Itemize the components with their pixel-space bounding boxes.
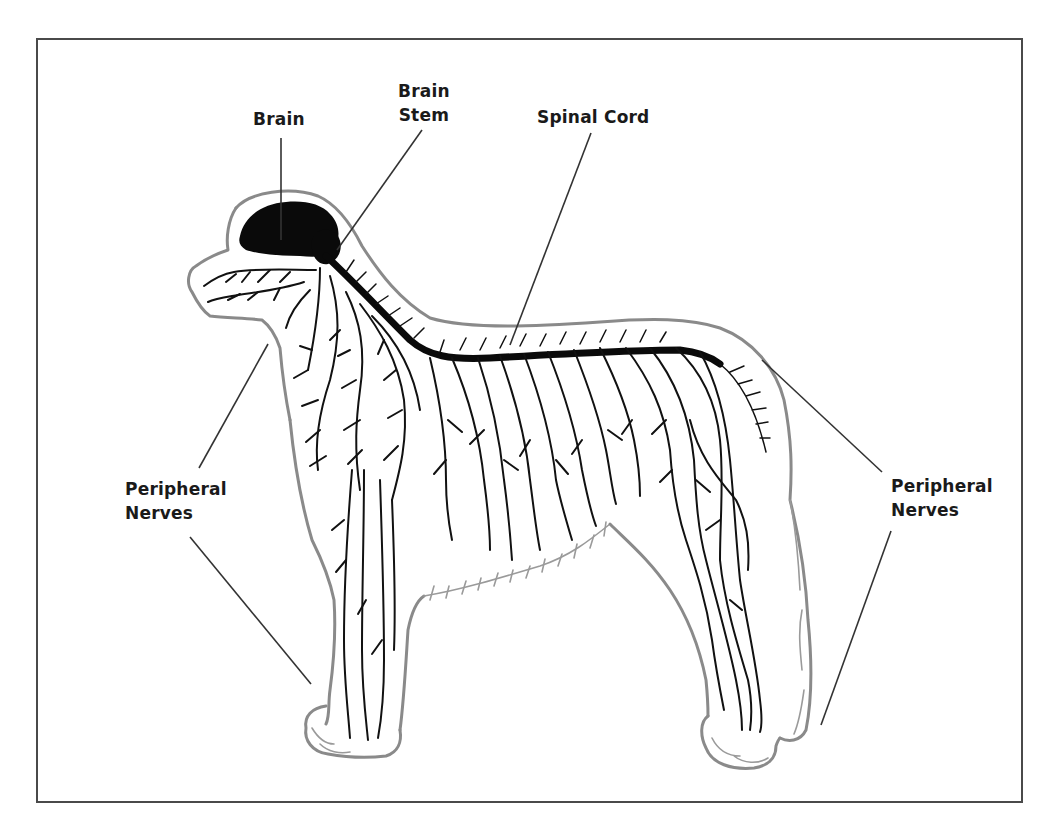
label-peripheral-nerves-left: Peripheral Nerves [125,477,227,525]
label-spinal-cord-text: Spinal Cord [537,107,649,127]
label-brain-stem-line1: Brain [398,79,450,103]
leader-peripheral-left-upper [199,344,268,468]
front-leg-nerves [332,470,395,740]
leader-peripheral-right-lower [821,531,891,725]
label-peripheral-right-line1: Peripheral [891,474,993,498]
rear-leg-nerves [626,348,762,732]
leader-spinal-cord [510,133,591,345]
label-brain-stem: Brain Stem [398,79,450,127]
dog-outline [189,191,811,768]
leader-peripheral-right-upper [762,360,882,472]
trunk-nerves [430,348,640,560]
label-brain: Brain [253,107,305,131]
label-spinal-cord: Spinal Cord [537,105,649,129]
dog-nervous-system-illustration [0,0,1038,837]
neck-shoulder-nerves [294,268,420,500]
label-peripheral-left-line1: Peripheral [125,477,227,501]
label-peripheral-left-line2: Nerves [125,501,227,525]
leader-brain-stem [337,130,422,250]
label-peripheral-nerves-right: Peripheral Nerves [891,474,993,522]
label-brain-text: Brain [253,109,305,129]
label-peripheral-right-line2: Nerves [891,498,993,522]
label-brain-stem-line2: Stem [398,103,450,127]
leader-peripheral-left-lower [190,537,311,684]
